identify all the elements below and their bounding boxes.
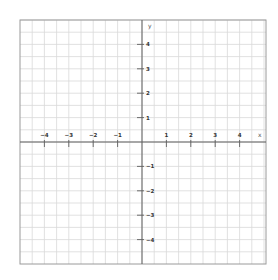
y-tick-label: 3 <box>146 66 150 72</box>
x-tick-label: 4 <box>238 132 242 138</box>
y-tick-label: 4 <box>146 41 150 47</box>
x-tick-label: −2 <box>89 132 98 138</box>
x-axis-ticks: −4−3−2−11234 <box>40 132 242 147</box>
y-tick-label: −3 <box>146 212 155 218</box>
coordinate-plane: −4−3−2−11234 4321−1−2−3−4 x y <box>0 0 278 280</box>
x-axis-label: x <box>258 131 262 138</box>
y-tick-label: −2 <box>146 188 155 194</box>
x-tick-label: −1 <box>113 132 122 138</box>
y-tick-label: 2 <box>146 90 150 96</box>
x-tick-label: 3 <box>213 132 217 138</box>
y-tick-label: −1 <box>146 163 155 169</box>
y-axis-label: y <box>148 22 152 30</box>
y-tick-label: 1 <box>146 115 150 121</box>
x-tick-label: 2 <box>189 132 193 138</box>
x-tick-label: −3 <box>65 132 74 138</box>
y-tick-label: −4 <box>146 237 155 243</box>
x-tick-label: −4 <box>40 132 49 138</box>
x-tick-label: 1 <box>164 132 168 138</box>
